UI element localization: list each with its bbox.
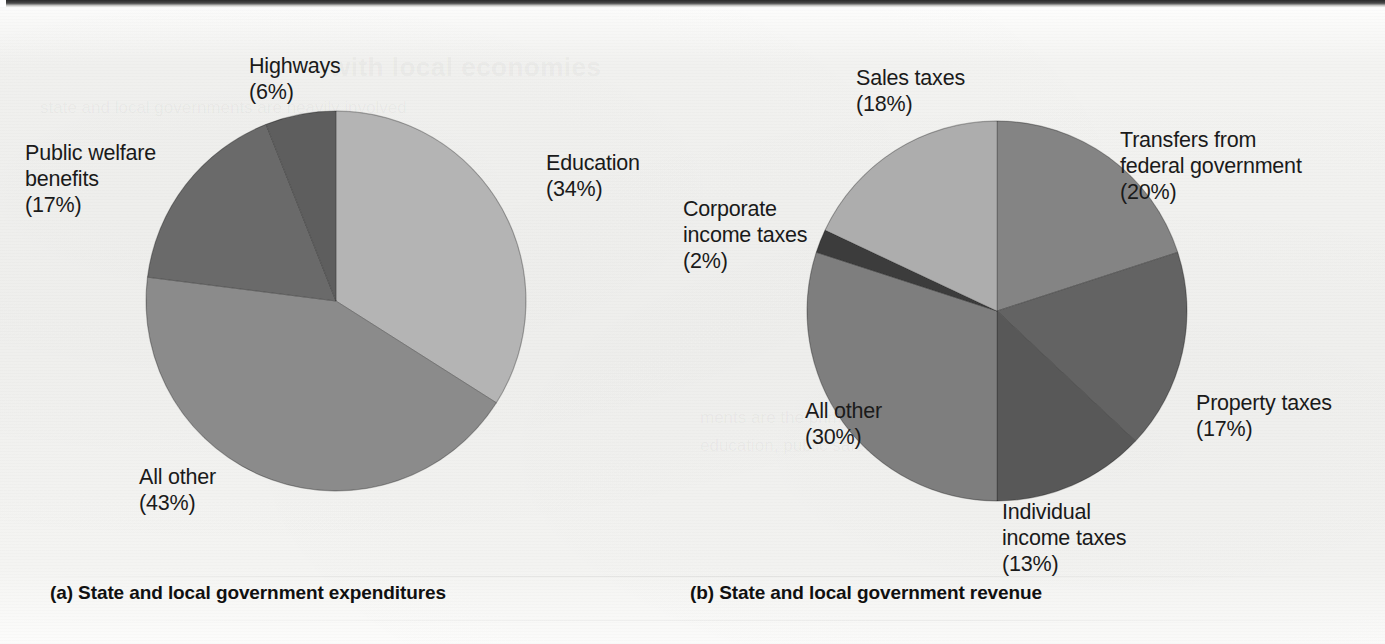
slice-label-public-welfare-benefits: Public welfare benefits (17%) — [25, 140, 156, 218]
caption-expenditures: (a) State and local government expenditu… — [50, 582, 446, 604]
slice-label-individual-income-taxes: Individual income taxes (13%) — [1002, 499, 1126, 577]
slice-label-education: Education (34%) — [546, 150, 640, 202]
caption-marker-b: (b) — [690, 582, 714, 603]
pie-charts-svg — [0, 0, 1385, 644]
slice-label-all-other-revenue: All other (30%) — [805, 398, 882, 450]
slice-label-corporate-income-taxes: Corporate income taxes (2%) — [683, 196, 807, 274]
slice-label-property-taxes: Property taxes (17%) — [1196, 390, 1332, 442]
caption-text-b: State and local government revenue — [719, 582, 1042, 603]
figure-container: with local economies state and local gov… — [0, 0, 1385, 644]
caption-text-a: State and local government expenditures — [78, 582, 446, 603]
slice-label-all-other-expenditures: All other (43%) — [139, 464, 216, 516]
slice-label-transfers-from-federal-government: Transfers from federal government (20%) — [1120, 127, 1302, 205]
slice-label-highways: Highways (6%) — [249, 53, 341, 105]
slice-label-sales-taxes: Sales taxes (18%) — [856, 65, 965, 117]
pie-chart-expenditures — [146, 111, 526, 491]
caption-marker-a: (a) — [50, 582, 73, 603]
caption-revenue: (b) State and local government revenue — [690, 582, 1042, 604]
